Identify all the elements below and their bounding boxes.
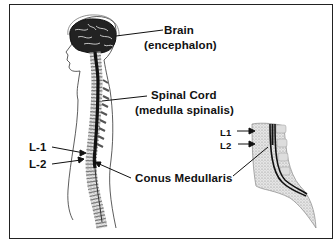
anatomy-illustration: [0, 0, 335, 247]
spinal-column: [91, 52, 109, 228]
label-brain: Brain: [164, 24, 194, 37]
label-l1: L-1: [29, 141, 47, 154]
label-l2: L-2: [29, 158, 47, 171]
label-spinal-cord-latin: (medulla spinalis): [135, 104, 234, 117]
label-spinal-cord: Spinal Cord: [151, 89, 217, 102]
label-l2-detail: L2: [220, 139, 231, 152]
label-brain-latin: (encephalon): [144, 39, 217, 52]
label-conus-medullaris: Conus Medullaris: [135, 172, 232, 185]
lumbar-detail: [252, 123, 316, 228]
label-l1-detail: L1: [220, 126, 231, 139]
